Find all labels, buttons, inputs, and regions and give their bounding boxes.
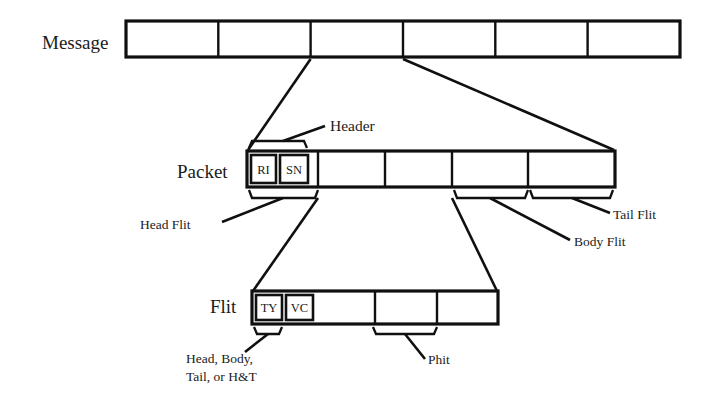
- body-flit-brace: [454, 190, 528, 198]
- message-to-packet-expansion: [248, 59, 614, 150]
- flit-cell-vc-label: VC: [291, 301, 308, 315]
- head-flit-label: Head Flit: [140, 217, 191, 232]
- flit-row-label: Flit: [210, 296, 237, 317]
- flit-row: Flit TY VC: [210, 291, 498, 324]
- header-brace: [249, 141, 307, 148]
- phit-label: Phit: [428, 352, 450, 367]
- flit-type-label-line1: Head, Body,: [186, 351, 253, 366]
- protocol-decomposition-diagram: Message Header Packet RI: [0, 0, 715, 406]
- body-flit-label: Body Flit: [574, 234, 626, 249]
- flit-type-leader: [245, 334, 268, 352]
- packet-cell-sn-label: SN: [286, 163, 302, 177]
- tail-flit-brace: [530, 190, 613, 198]
- header-leader: [283, 126, 325, 141]
- packet-cell-ri-label: RI: [257, 163, 270, 177]
- packet-row-label: Packet: [177, 161, 228, 182]
- diagram-canvas: Message Header Packet RI: [0, 0, 715, 406]
- phit-leader: [405, 334, 425, 359]
- head-flit-callout: Head Flit: [140, 190, 318, 232]
- phit-brace: [373, 327, 437, 334]
- expansion-line-left: [248, 59, 311, 150]
- head-flit-brace: [249, 190, 318, 198]
- packet-to-flit-expansion: [253, 198, 497, 291]
- flit-expansion-line-left: [253, 198, 318, 291]
- header-label: Header: [330, 117, 376, 134]
- flit-cell-ty-label: TY: [261, 301, 278, 315]
- expansion-line-right: [403, 59, 614, 150]
- message-row: Message: [42, 21, 680, 57]
- phit-callout: Phit: [373, 327, 450, 367]
- head-flit-leader: [222, 198, 283, 222]
- tail-flit-callout: Tail Flit: [530, 190, 656, 222]
- flit-expansion-line-right: [452, 198, 497, 291]
- packet-row: Packet RI SN: [177, 151, 615, 187]
- body-flit-leader: [490, 198, 570, 240]
- flit-type-callout: Head, Body, Tail, or H&T: [186, 327, 282, 384]
- message-row-label: Message: [42, 32, 108, 53]
- flit-type-brace: [254, 327, 282, 334]
- tail-flit-leader: [572, 198, 610, 213]
- tail-flit-label: Tail Flit: [613, 207, 656, 222]
- flit-type-label-line2: Tail, or H&T: [186, 369, 257, 384]
